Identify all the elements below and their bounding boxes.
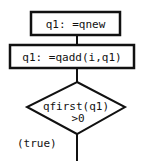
decision-label-line2: >0 (71, 112, 84, 125)
node-label: q1: =qadd(i,q1) (22, 51, 121, 64)
decision-node-qfirst: qfirst(q1) >0 (27, 82, 125, 134)
true-branch-label: (true) (17, 137, 57, 150)
node-label: q1: =qnew (46, 18, 106, 31)
process-node-qadd: q1: =qadd(i,q1) (10, 45, 134, 68)
flowchart: q1: =qnew q1: =qadd(i,q1) qfirst(q1) >0 … (0, 0, 145, 164)
process-node-qnew: q1: =qnew (31, 12, 120, 35)
